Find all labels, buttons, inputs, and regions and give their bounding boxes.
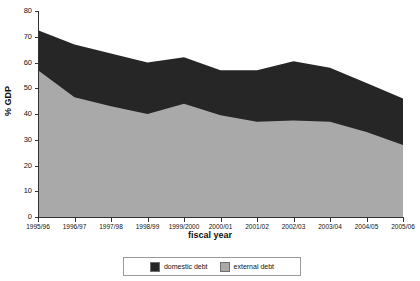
legend-item-domestic-debt: domestic debt — [150, 262, 208, 272]
y-axis-tick-label: 20 — [10, 162, 32, 170]
x-axis-title: fiscal year — [0, 230, 420, 240]
stacked-area-chart: % GDP 01020304050607080 1995/961996/9719… — [0, 0, 420, 281]
y-axis-tick-label: 70 — [10, 33, 32, 41]
y-axis-tick-label: 60 — [10, 59, 32, 67]
legend-item-external-debt: external debt — [220, 262, 274, 272]
legend-swatch-icon — [150, 262, 160, 272]
y-axis-tick-label: 40 — [10, 110, 32, 118]
y-axis-tick-label: 0 — [10, 213, 32, 221]
legend-label: external debt — [234, 263, 274, 270]
y-axis-tick-label: 30 — [10, 136, 32, 144]
y-axis-tick-label: 10 — [10, 187, 32, 195]
legend-swatch-icon — [220, 262, 230, 272]
y-axis-tick-label: 80 — [10, 7, 32, 15]
chart-legend: domestic debt external debt — [123, 257, 301, 276]
legend-label: domestic debt — [164, 263, 208, 270]
y-axis-tick-label: 50 — [10, 84, 32, 92]
